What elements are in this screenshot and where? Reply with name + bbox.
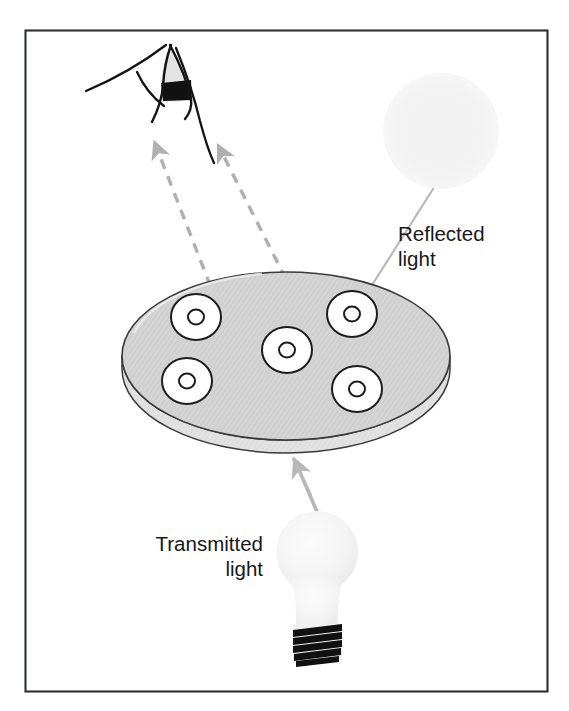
well-top-right [327,291,377,337]
well-top-left [171,294,221,340]
figure-root: Reflected light Transmitted light [0,0,569,711]
transmitted-light-label-line1: Transmitted [156,532,263,555]
bulb-screw-threads [293,624,342,667]
reflected-light-label-line1: Reflected [398,222,485,245]
well-bottom-left [162,358,212,404]
reflected-light-source-glow [383,73,499,189]
optical-diagram-canvas: Reflected light Transmitted light [0,0,569,711]
reflected-light-label-line2: light [398,247,436,270]
transmitted-light-label-line2: light [225,557,263,580]
well-bottom-right [332,366,382,412]
well-center [262,327,312,373]
